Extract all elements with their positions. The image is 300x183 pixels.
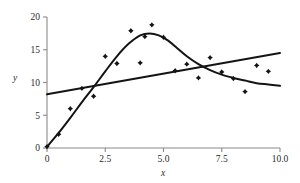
x-tick-label: 7.5: [216, 154, 228, 164]
y-tick-label: 0: [35, 143, 40, 153]
x-tick-label: 10.0: [272, 154, 289, 164]
y-tick-label: 10: [31, 78, 41, 88]
chart-canvas: 05101520 02.55.07.510.0 x y: [0, 0, 300, 183]
x-tick-label: 2.5: [99, 154, 111, 164]
y-tick-label: 5: [35, 111, 40, 121]
x-tick-label: 5.0: [158, 154, 170, 164]
y-axis-label: y: [12, 73, 18, 83]
x-tick-label: 0: [45, 154, 50, 164]
y-tick-label: 20: [31, 12, 41, 22]
scatter-plot-figure: 05101520 02.55.07.510.0 x y: [0, 0, 300, 183]
y-tick-label: 15: [31, 45, 41, 55]
x-axis-label: x: [160, 168, 166, 178]
